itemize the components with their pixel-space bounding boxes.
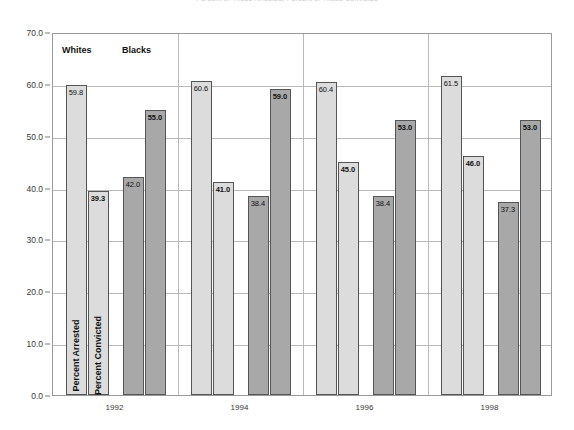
bar-1996-blacks-percent-convicted: 53.0 <box>395 120 416 395</box>
plot-area: 59.8Percent Arrested39.3Percent Convicte… <box>52 33 552 396</box>
chart-title: Percent of Those Arrested; Percent of Th… <box>0 0 574 5</box>
bar-1992-whites-percent-arrested: 59.8Percent Arrested <box>66 85 87 395</box>
bar-value-label: 55.0 <box>148 114 163 122</box>
bar-value-label: 60.6 <box>194 85 209 93</box>
gridline-vertical <box>178 34 179 395</box>
chart-legend: WhitesBlacks <box>52 45 252 65</box>
bar-1996-blacks-percent-arrested: 38.4 <box>373 196 394 395</box>
y-axis: 70.060.050.040.030.020.010.00.0 <box>0 33 50 396</box>
y-axis-tick-label: 20.0 <box>26 287 43 297</box>
y-axis-tick-mark <box>45 84 50 85</box>
bar-1998-blacks-percent-convicted: 53.0 <box>520 120 541 395</box>
gridline-vertical <box>303 34 304 395</box>
gridline-horizontal <box>53 138 551 139</box>
x-axis-tick-label: 1998 <box>481 403 499 412</box>
bar-1992-blacks-percent-arrested: 42.0 <box>123 177 144 395</box>
gridline-horizontal <box>53 86 551 87</box>
bar-value-label: 39.3 <box>91 195 106 203</box>
bar-value-label: 38.4 <box>251 200 266 208</box>
x-axis-tick-label: 1996 <box>356 403 374 412</box>
y-axis-tick-mark <box>45 136 50 137</box>
x-axis-tick-label: 1992 <box>106 403 124 412</box>
y-axis-tick-mark <box>45 33 50 34</box>
bar-value-label: 59.8 <box>69 89 84 97</box>
bar-value-label: 41.0 <box>216 186 231 194</box>
gridline-vertical <box>428 34 429 395</box>
y-axis-tick-mark <box>45 188 50 189</box>
bar-1994-blacks-percent-arrested: 38.4 <box>248 196 269 395</box>
bar-value-label: 53.0 <box>523 124 538 132</box>
bar-inline-label: Percent Convicted <box>94 316 103 395</box>
y-axis-tick-label: 10.0 <box>26 339 43 349</box>
bar-1992-whites-percent-convicted: 39.3Percent Convicted <box>88 191 109 395</box>
legend-label-whites: Whites <box>62 45 92 55</box>
bar-value-label: 38.4 <box>376 200 391 208</box>
legend-label-blacks: Blacks <box>122 45 151 55</box>
bar-1994-whites-percent-arrested: 60.6 <box>191 81 212 395</box>
y-axis-tick-label: 60.0 <box>26 80 43 90</box>
y-axis-tick-label: 30.0 <box>26 235 43 245</box>
bar-1998-whites-percent-arrested: 61.5 <box>441 76 462 395</box>
bar-1996-whites-percent-arrested: 60.4 <box>316 82 337 395</box>
bar-1996-whites-percent-convicted: 45.0 <box>338 162 359 395</box>
bar-1994-whites-percent-convicted: 41.0 <box>213 182 234 395</box>
y-axis-tick-mark <box>45 396 50 397</box>
bar-1994-blacks-percent-convicted: 59.0 <box>270 89 291 395</box>
y-axis-tick-mark <box>45 292 50 293</box>
y-axis-tick-label: 40.0 <box>26 184 43 194</box>
y-axis-tick-label: 0.0 <box>31 391 43 401</box>
bar-value-label: 53.0 <box>398 124 413 132</box>
bar-value-label: 45.0 <box>341 166 356 174</box>
bar-value-label: 60.4 <box>319 86 334 94</box>
bar-value-label: 46.0 <box>466 160 481 168</box>
y-axis-tick-mark <box>45 344 50 345</box>
bar-value-label: 37.3 <box>501 206 516 214</box>
y-axis-tick-label: 50.0 <box>26 132 43 142</box>
x-axis-tick-label: 1994 <box>231 403 249 412</box>
bar-value-label: 59.0 <box>273 93 288 101</box>
bar-1992-blacks-percent-convicted: 55.0 <box>145 110 166 395</box>
bar-value-label: 61.5 <box>444 80 459 88</box>
y-axis-tick-label: 70.0 <box>26 28 43 38</box>
bar-1998-blacks-percent-arrested: 37.3 <box>498 202 519 395</box>
bar-1998-whites-percent-convicted: 46.0 <box>463 156 484 395</box>
y-axis-tick-mark <box>45 240 50 241</box>
x-axis: 1992199419961998 <box>52 398 552 418</box>
bar-inline-label: Percent Arrested <box>72 319 81 391</box>
bar-value-label: 42.0 <box>126 181 141 189</box>
